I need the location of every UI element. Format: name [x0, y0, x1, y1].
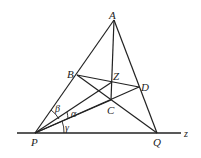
segment-AC [111, 20, 114, 100]
angle-gamma-label: γ [65, 122, 70, 133]
diagram-svg: A B Z D C P Q z β α γ [0, 0, 201, 158]
segment-AQ [114, 20, 157, 133]
label-A: A [108, 9, 116, 21]
label-Z: Z [113, 70, 120, 82]
label-C: C [107, 104, 115, 116]
angle-beta-label: β [54, 103, 60, 114]
label-P: P [30, 136, 38, 148]
label-D: D [140, 81, 149, 93]
label-Q: Q [153, 136, 161, 148]
label-B: B [67, 68, 74, 80]
angle-arc-gamma [62, 121, 64, 133]
angle-alpha-label: α [71, 108, 77, 119]
label-line-z: z [183, 128, 188, 139]
angle-arc-alpha [67, 112, 68, 119]
geometry-diagram: A B Z D C P Q z β α γ [0, 0, 201, 158]
